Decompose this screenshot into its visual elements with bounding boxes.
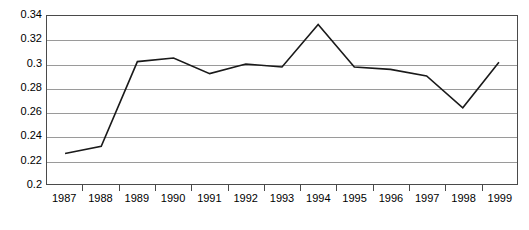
- y-axis-tick-label: 0.32: [2, 33, 42, 44]
- x-axis-tick-label: 1998: [451, 193, 475, 204]
- x-axis-tick-labels: 1987198819891990199119921993199419951996…: [46, 193, 518, 213]
- x-axis-tick-label: 1988: [88, 193, 112, 204]
- plot-area: [46, 15, 518, 185]
- y-axis-tick-label: 0.2: [2, 179, 42, 190]
- y-axis-tick-label: 0.34: [2, 9, 42, 20]
- line-chart: 0.20.220.240.260.280.30.320.34 198719881…: [0, 0, 529, 230]
- x-axis-tick-mark: [264, 185, 265, 191]
- x-axis-tick-marks: [46, 185, 518, 191]
- x-axis-tick-label: 1997: [415, 193, 439, 204]
- x-axis-tick-mark: [119, 185, 120, 191]
- x-axis-tick-mark: [82, 185, 83, 191]
- x-axis-tick-label: 1992: [233, 193, 257, 204]
- x-axis-tick-label: 1990: [161, 193, 185, 204]
- y-axis-tick-label: 0.24: [2, 130, 42, 141]
- y-axis-tick-label: 0.3: [2, 58, 42, 69]
- x-axis-tick-mark: [300, 185, 301, 191]
- series-line-path: [65, 24, 499, 153]
- x-axis-tick-mark: [373, 185, 374, 191]
- x-axis-tick-mark: [409, 185, 410, 191]
- x-axis-tick-mark: [482, 185, 483, 191]
- series-line-svg: [47, 16, 517, 184]
- x-axis-tick-label: 1994: [306, 193, 330, 204]
- x-axis-tick-label: 1993: [270, 193, 294, 204]
- y-axis-tick-label: 0.22: [2, 155, 42, 166]
- x-axis-tick-mark: [336, 185, 337, 191]
- x-axis-tick-label: 1999: [488, 193, 512, 204]
- x-axis-tick-mark: [228, 185, 229, 191]
- x-axis-tick-label: 1996: [379, 193, 403, 204]
- y-axis-tick-label: 0.28: [2, 82, 42, 93]
- x-axis-tick-mark: [445, 185, 446, 191]
- x-axis-tick-mark: [191, 185, 192, 191]
- x-axis-tick-label: 1987: [52, 193, 76, 204]
- x-axis-tick-label: 1989: [125, 193, 149, 204]
- x-axis-tick-label: 1991: [197, 193, 221, 204]
- y-axis-tick-labels: 0.20.220.240.260.280.30.320.34: [0, 15, 42, 185]
- x-axis-tick-label: 1995: [342, 193, 366, 204]
- x-axis-tick-mark: [155, 185, 156, 191]
- y-axis-tick-label: 0.26: [2, 106, 42, 117]
